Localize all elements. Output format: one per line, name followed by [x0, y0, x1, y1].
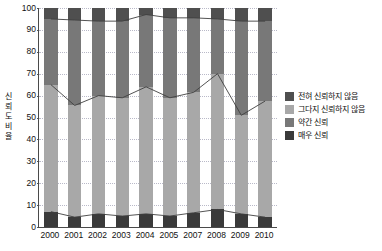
y-tick-label: 90 — [27, 25, 36, 34]
legend-item[interactable]: 전혀 신뢰하지 않음 — [285, 90, 381, 103]
boundary-line — [51, 74, 265, 116]
y-tick-label: 40 — [27, 135, 36, 144]
boundary-line — [51, 15, 265, 22]
x-tick-label: 2002 — [86, 230, 110, 240]
y-tick-label: 0 — [31, 223, 36, 232]
y-axis-title-char: 뢰 — [2, 102, 14, 112]
legend: 전혀 신뢰하지 않음그다지 신뢰하지 않음약간 신뢰매우 신뢰 — [285, 90, 381, 142]
y-tick-label: 20 — [27, 179, 36, 188]
legend-label: 전혀 신뢰하지 않음 — [298, 92, 358, 101]
y-axis-title: 신뢰도비율 — [2, 92, 14, 142]
x-tick-label: 2009 — [228, 230, 252, 240]
y-tick-label: 30 — [27, 157, 36, 166]
y-tick-label: 70 — [27, 69, 36, 78]
y-axis-title-char: 비 — [2, 122, 14, 132]
legend-label: 약간 신뢰 — [298, 118, 328, 127]
legend-label: 매우 신뢰 — [298, 131, 328, 140]
x-tick-label: 2008 — [205, 230, 229, 240]
legend-item[interactable]: 매우 신뢰 — [285, 129, 381, 142]
y-axis-title-char: 율 — [2, 132, 14, 142]
legend-swatch-icon — [285, 131, 294, 140]
y-tick-label: 100 — [22, 4, 36, 13]
legend-swatch-icon — [285, 105, 294, 114]
stacked-bar-chart: 신뢰도비율 0102030405060708090100 20002001200… — [0, 0, 382, 251]
x-tick-label: 2004 — [133, 230, 157, 240]
y-tick-label: 80 — [27, 47, 36, 56]
y-axis-title-char: 도 — [2, 112, 14, 122]
x-tick-label: 2001 — [62, 230, 86, 240]
legend-label: 그다지 신뢰하지 않음 — [298, 105, 365, 114]
boundary-line-layer — [39, 8, 277, 227]
legend-swatch-icon — [285, 118, 294, 127]
boundary-line — [51, 209, 265, 217]
y-axis-title-char: 신 — [2, 92, 14, 102]
x-axis-tick-labels: 2000200120022003200420052007200820092010 — [38, 230, 276, 244]
legend-swatch-icon — [285, 92, 294, 101]
y-axis-tick-labels: 0102030405060708090100 — [14, 0, 36, 251]
x-tick-label: 2003 — [109, 230, 133, 240]
x-tick-label: 2007 — [181, 230, 205, 240]
y-tick-label: 50 — [27, 113, 36, 122]
x-tick-label: 2010 — [252, 230, 276, 240]
legend-item[interactable]: 그다지 신뢰하지 않음 — [285, 103, 381, 116]
x-tick-label: 2000 — [38, 230, 62, 240]
x-tick-label: 2005 — [157, 230, 181, 240]
y-tick-label: 10 — [27, 201, 36, 210]
legend-item[interactable]: 약간 신뢰 — [285, 116, 381, 129]
plot-area — [38, 8, 277, 228]
y-tick-label: 60 — [27, 91, 36, 100]
